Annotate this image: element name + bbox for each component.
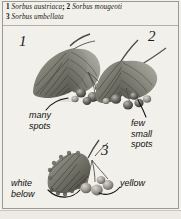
annotation-few-small-spots-line-3: spots [131, 139, 153, 150]
caption-species-2: Sorbus mougeoti [72, 3, 122, 11]
figure-2-illustration [96, 40, 166, 110]
figure-numeral-3: 3 [101, 143, 109, 158]
caption-line-1: 1 Sorbus austriaca; 2 Sorbus mougeoti [6, 3, 175, 13]
annotation-yellow-line-1: yellow [120, 178, 145, 189]
caption-species-1: Sorbus austriaca [12, 3, 63, 11]
figure-numeral-1: 1 [19, 34, 27, 49]
leader-few-small-spots [138, 100, 146, 117]
field-guide-plate: 1 Sorbus austriaca; 2 Sorbus mougeoti 3 … [0, 0, 181, 219]
leader-many-spots [46, 98, 68, 110]
figure-1-illustration [33, 34, 109, 105]
caption-number-1: 1 [6, 3, 10, 11]
caption-number-3: 3 [6, 13, 10, 21]
caption-line-2: 3 Sorbus umbellata [6, 13, 175, 23]
annotation-many-spots-line-2: spots [29, 121, 51, 132]
species-caption: 1 Sorbus austriaca; 2 Sorbus mougeoti 3 … [6, 3, 175, 22]
annotation-few-small-spots-line-1: few [131, 118, 153, 129]
annotation-white-below-line-2: below [11, 189, 35, 200]
leader-yellow [99, 187, 120, 194]
figure-numeral-2: 2 [148, 29, 156, 44]
annotation-many-spots-line-1: many [29, 110, 51, 121]
annotation-white-below: white below [11, 178, 35, 199]
annotation-few-small-spots: few small spots [131, 118, 153, 150]
caption-species-3: Sorbus umbellata [12, 13, 64, 21]
caption-separator: ; [62, 3, 65, 11]
annotation-few-small-spots-line-2: small [131, 129, 153, 140]
leader-white-below [48, 190, 80, 197]
header-divider [3, 25, 178, 26]
caption-number-2: 2 [67, 3, 71, 11]
annotation-yellow: yellow [120, 178, 145, 189]
page-footer-band [0, 210, 181, 219]
annotation-many-spots: many spots [29, 110, 51, 131]
annotation-white-below-line-1: white [11, 178, 35, 189]
